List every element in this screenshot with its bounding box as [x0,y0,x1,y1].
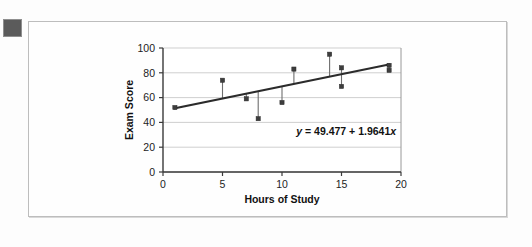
plot-background [163,48,401,172]
data-point-marker [339,84,343,88]
x-tick-label: 15 [336,178,348,190]
y-tick-label: 60 [143,91,155,103]
y-axis-ticks: 020406080100 [137,42,163,178]
scatter-plot-svg: 020406080100 05101520 y = 49.477 + 1.964… [29,22,508,218]
data-point-marker [387,68,391,72]
x-tick-label: 0 [160,178,166,190]
data-point-marker [387,63,391,67]
chart-area: 020406080100 05101520 y = 49.477 + 1.964… [29,22,508,218]
data-point-marker [339,66,343,70]
x-axis-title: Hours of Study [244,193,319,205]
data-point-marker [256,117,260,121]
square-bullet-icon [3,19,22,37]
data-point-marker [244,97,248,101]
y-tick-label: 100 [137,42,155,54]
page-background: 020406080100 05101520 y = 49.477 + 1.964… [0,0,532,247]
data-point-marker [328,52,332,56]
y-tick-label: 40 [143,116,155,128]
y-tick-label: 20 [143,141,155,153]
y-tick-label: 80 [143,67,155,79]
equation-x-symbol: x [389,125,397,137]
x-axis-ticks: 05101520 [160,172,407,190]
y-tick-label: 0 [149,166,155,178]
data-point-marker [280,100,284,104]
data-point-marker [173,105,177,109]
y-axis-title: Exam Score [123,80,135,140]
figure-container: 020406080100 05101520 y = 49.477 + 1.964… [28,21,507,217]
data-point-marker [220,78,224,82]
x-tick-label: 5 [220,178,226,190]
x-tick-label: 20 [395,178,407,190]
x-tick-label: 10 [276,178,288,190]
data-point-marker [292,67,296,71]
regression-equation-label: y = 49.477 + 1.9641x [295,125,397,137]
equation-body: = 49.477 + 1.9641 [302,125,390,137]
